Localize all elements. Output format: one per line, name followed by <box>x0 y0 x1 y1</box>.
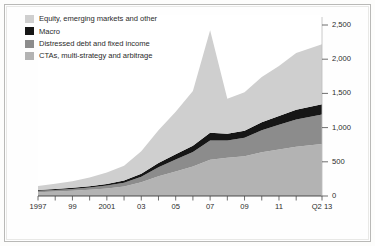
chart-legend: Equity, emerging markets and otherMacroD… <box>25 13 225 63</box>
x-axis-tick-label: 03 <box>137 202 145 211</box>
legend-item-label: Macro <box>39 27 60 36</box>
x-axis-tick-label: 05 <box>171 202 179 211</box>
legend-item-distressed: Distressed debt and fixed income <box>25 38 225 50</box>
y-axis-tick-label: 2,500 <box>332 20 351 29</box>
x-axis-tick-label: 99 <box>68 202 76 211</box>
y-axis-tick-label: 2,000 <box>332 54 351 63</box>
legend-swatch-icon <box>25 52 34 60</box>
legend-item-macro: Macro <box>25 25 225 37</box>
legend-item-ctas: CTAs, multi-strategy and arbitrage <box>25 50 225 62</box>
x-axis-tick-label: 2001 <box>98 202 115 211</box>
legend-item-label: CTAs, multi-strategy and arbitrage <box>39 51 152 60</box>
x-axis-tick-label: 11 <box>275 202 283 211</box>
y-axis-tick-label: 1,000 <box>332 123 351 132</box>
legend-swatch-icon <box>25 27 34 35</box>
y-axis-tick-label: 500 <box>332 157 345 166</box>
legend-item-equity: Equity, emerging markets and other <box>25 13 225 25</box>
legend-swatch-icon <box>25 15 34 23</box>
chart-figure: Equity, emerging markets and otherMacroD… <box>0 0 375 246</box>
x-axis-tick-label: 1997 <box>30 202 47 211</box>
x-axis-tick-label: 07 <box>206 202 214 211</box>
legend-swatch-icon <box>25 40 34 48</box>
y-axis-tick-label: 0 <box>332 191 336 200</box>
x-axis-tick-label: 09 <box>240 202 248 211</box>
y-axis-tick-label: 1,500 <box>332 88 351 97</box>
legend-item-label: Distressed debt and fixed income <box>39 39 150 48</box>
x-axis-tick-label: Q2 13 <box>312 202 333 211</box>
legend-item-label: Equity, emerging markets and other <box>39 14 157 23</box>
